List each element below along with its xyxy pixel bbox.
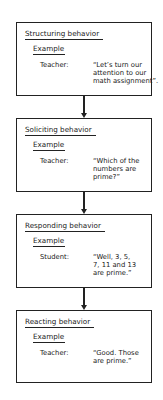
reacting-behavior-box: Reacting behavior Example Teacher: “Good… [16, 310, 152, 383]
quote-line: are prime.” [93, 269, 153, 277]
speaker-label: Teacher: [40, 157, 69, 165]
example-label: Example [33, 44, 65, 55]
example-quote: “Which of the numbers are prime?” [93, 157, 153, 181]
example-label: Example [33, 140, 65, 151]
soliciting-behavior-box: Soliciting behavior Example Teacher: “Wh… [16, 118, 152, 192]
quote-line: “Good. Those [93, 349, 153, 357]
box-title: Reacting behavior [25, 317, 94, 328]
speaker-label: Teacher: [40, 61, 69, 69]
box-title: Responding behavior [25, 221, 105, 232]
responding-behavior-box: Responding behavior Example Student: “We… [16, 214, 152, 288]
example-label: Example [33, 332, 65, 343]
example-label: Example [33, 236, 65, 247]
quote-line: “Let’s turn our [93, 61, 153, 69]
quote-line: are prime.” [93, 357, 153, 365]
box-title: Structuring behavior [25, 29, 103, 40]
flow-arrow-3-shaft [83, 288, 85, 306]
quote-line: numbers are [93, 165, 153, 173]
example-quote: “Well, 3, 5, 7, 11 and 13 are prime.” [93, 253, 153, 277]
structuring-behavior-box: Structuring behavior Example Teacher: “L… [16, 22, 152, 96]
box-title: Soliciting behavior [25, 125, 96, 136]
quote-line: math assignment”. [93, 77, 153, 85]
quote-line: “Well, 3, 5, [93, 253, 153, 261]
example-quote: “Good. Those are prime.” [93, 349, 153, 365]
speaker-label: Student: [40, 253, 69, 261]
example-quote: “Let’s turn our attention to our math as… [93, 61, 153, 85]
quote-line: prime?” [93, 173, 153, 181]
quote-line: 7, 11 and 13 [93, 261, 153, 269]
quote-line: “Which of the [93, 157, 153, 165]
quote-line: attention to our [93, 69, 153, 77]
flow-arrow-1-shaft [83, 96, 85, 114]
flow-arrow-2-shaft [83, 192, 85, 210]
speaker-label: Teacher: [40, 349, 69, 357]
